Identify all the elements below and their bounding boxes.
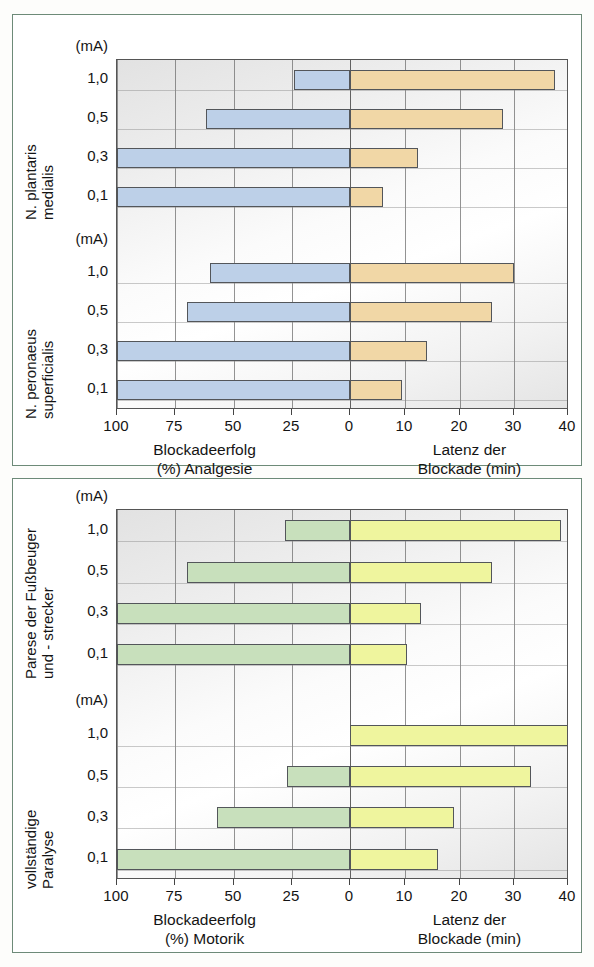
row-separator [117,361,567,362]
tick-label-minutes-10: 10 [395,417,412,434]
group-label: Parese der Fußbeugerund - strecker [23,528,57,679]
axis-tick [174,409,175,415]
category-label-mA: 1,0 [60,520,108,537]
row-separator [117,828,567,829]
axis-tick [291,879,292,885]
axis-title-left: Blockadeerfolg(%) Analgesie [95,441,315,479]
bar-block-success [117,380,350,400]
category-label-mA: 0,5 [60,766,108,783]
bar-block-success [187,302,350,322]
row-separator [117,400,567,401]
row-separator [117,168,567,169]
bar-block-success [117,603,350,624]
axis-tick [233,409,234,415]
group-label-line: Paralyse [40,810,57,889]
row-separator [117,870,567,871]
row-separator [117,283,567,284]
axis-title-left: Blockadeerfolg(%) Motorik [95,911,315,949]
panel-motor: 1,00,50,30,1(mA)Parese der Fußbeugerund … [12,478,582,953]
row-separator [117,746,567,747]
category-label-mA: 1,0 [60,69,108,86]
tick-label-percent-50: 50 [224,417,241,434]
unit-label-mA: (mA) [52,487,108,504]
axis-title-left-line: (%) Motorik [95,930,315,949]
row-separator [117,624,567,625]
group-label-line: superficialis [40,329,57,419]
unit-label-mA: (mA) [52,37,108,54]
bar-latency [350,766,531,787]
category-label-mA: 0,5 [60,108,108,125]
axis-tick [349,879,350,885]
axis-title-left-line: (%) Analgesie [95,460,315,479]
bar-latency [350,520,561,541]
bar-latency [350,380,402,400]
group-label: vollständigeParalyse [23,810,57,889]
gridline-percent-75 [175,510,176,878]
row-separator [117,322,567,323]
bar-latency [350,302,492,322]
tick-label-minutes-20: 20 [450,417,467,434]
bar-block-success [287,766,350,787]
category-label-mA: 0,1 [60,848,108,865]
row-separator [117,129,567,130]
tick-label-zero: 0 [345,417,354,434]
category-label-mA: 0,1 [60,379,108,396]
tick-label-minutes-20: 20 [450,887,467,904]
axis-title-right: Latenz derBlockade (min) [359,441,579,479]
tick-label-minutes-40: 40 [558,417,575,434]
category-label-mA: 0,3 [60,340,108,357]
bar-block-success [206,109,350,129]
plot-area-motor [116,509,568,879]
axis-tick [291,409,292,415]
gridline-percent-100 [117,510,118,878]
axis-tick [233,879,234,885]
category-label-mA: 0,5 [60,561,108,578]
figure-root: 1,00,50,30,1(mA)N. plantarismedialis1,00… [0,0,594,967]
bar-block-success [217,807,350,828]
unit-label-mA: (mA) [52,691,108,708]
tick-label-percent-100: 100 [103,417,129,434]
bar-block-success [210,263,350,283]
panel-sensory: 1,00,50,30,1(mA)N. plantarismedialis1,00… [12,14,582,466]
row-separator [117,583,567,584]
gridline-minutes-30 [514,510,515,878]
axis-tick [404,409,405,415]
tick-label-minutes-10: 10 [395,887,412,904]
axis-tick [567,879,568,885]
row-separator [117,90,567,91]
category-label-mA: 0,1 [60,644,108,661]
axis-tick [459,409,460,415]
bar-block-success [117,644,350,665]
axis-tick [349,409,350,415]
group-label-line: N. peronaeus [23,329,40,419]
bar-latency [350,148,418,168]
row-separator [117,541,567,542]
bar-latency [350,603,421,624]
row-separator [117,665,567,666]
bar-latency [350,849,438,870]
axis-tick [116,409,117,415]
axis-tick [174,879,175,885]
tick-label-minutes-30: 30 [504,887,521,904]
category-label-mA: 0,3 [60,602,108,619]
bar-latency [350,725,568,746]
group-label-line: medialis [40,144,57,220]
tick-label-minutes-30: 30 [504,417,521,434]
plot-area-sensory [116,59,568,409]
bar-latency [350,644,407,665]
category-label-mA: 0,3 [60,147,108,164]
axis-title-right-line: Latenz der [359,911,579,930]
bar-latency [350,341,427,361]
axis-title-left-line: Blockadeerfolg [95,441,315,460]
bar-block-success [294,70,350,90]
bar-block-success [117,849,350,870]
bar-latency [350,807,454,828]
bar-latency [350,187,383,207]
category-label-mA: 0,1 [60,186,108,203]
tick-label-percent-25: 25 [282,887,299,904]
axis-title-right-line: Latenz der [359,441,579,460]
bar-block-success [117,341,350,361]
tick-label-minutes-40: 40 [558,887,575,904]
category-label-mA: 1,0 [60,724,108,741]
group-label-line: Parese der Fußbeuger [23,528,40,679]
